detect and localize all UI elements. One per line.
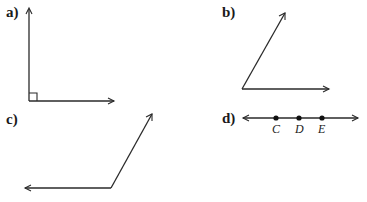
angles-diagram: a) b) c) d) C D E [0, 0, 367, 202]
ray-b-slanted [242, 13, 285, 89]
point-e-dot [319, 115, 324, 120]
ray-c-slanted [111, 114, 152, 188]
label-d: d) [222, 110, 235, 127]
figure-d: d) C D E [222, 110, 358, 136]
point-c-dot [273, 115, 278, 120]
label-a: a) [6, 4, 19, 21]
point-d-dot [296, 115, 301, 120]
figure-c: c) [6, 111, 152, 191]
figure-b: b) [222, 4, 329, 92]
point-d-label: D [294, 122, 304, 136]
right-angle-marker-icon [29, 93, 37, 101]
point-c-label: C [272, 122, 281, 136]
point-e-label: E [317, 122, 326, 136]
label-b: b) [222, 4, 235, 21]
figure-a: a) [6, 4, 114, 104]
label-c: c) [6, 111, 18, 128]
